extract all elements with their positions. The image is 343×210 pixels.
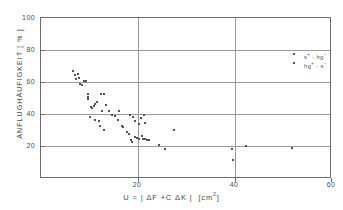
legend-marker-icon-0 (293, 53, 295, 55)
chart-legend: s+ - hg− hg+ - s− (293, 50, 343, 68)
gridline-x-20 (138, 18, 139, 177)
data-point (231, 148, 233, 150)
x-tick-label-20: 20 (125, 181, 149, 188)
data-point (143, 114, 145, 116)
data-point (75, 78, 77, 80)
data-point (74, 74, 76, 76)
gridline-y-60 (41, 82, 330, 83)
data-point (87, 98, 89, 100)
y-tick-60 (41, 82, 45, 83)
data-point (138, 123, 140, 125)
data-point (158, 144, 160, 146)
data-point (129, 114, 131, 116)
y-tick-label-40: 40 (9, 110, 35, 117)
legend-entry-1: hg+ - s− (293, 59, 343, 68)
data-point (134, 120, 136, 122)
data-point (291, 147, 293, 149)
y-tick-40 (41, 114, 45, 115)
data-point (103, 129, 105, 131)
data-point (118, 110, 120, 112)
gridline-y-40 (41, 114, 330, 115)
y-tick-80 (41, 50, 45, 51)
data-point (94, 103, 96, 105)
gridline-y-20 (41, 146, 330, 147)
x-tick-label-40: 40 (222, 181, 246, 188)
x-tick-20 (138, 178, 139, 182)
y-tick-label-20: 20 (9, 142, 35, 149)
data-point (89, 116, 91, 118)
data-point (232, 159, 234, 161)
data-point (72, 70, 74, 72)
data-point (173, 129, 175, 131)
data-point (96, 101, 98, 103)
data-point (85, 80, 87, 82)
x-tick-60 (331, 178, 332, 182)
data-point (122, 126, 124, 128)
legend-label-1: hg+ - s− (304, 59, 327, 71)
data-point (94, 119, 96, 121)
data-point (111, 114, 113, 116)
data-point (103, 93, 105, 95)
plot-area: s+ - hg− hg+ - s− (40, 17, 331, 178)
x-axis-title: U=|ΔF+CΔK|[cm2] (0, 191, 343, 202)
data-point (78, 77, 80, 79)
data-point (108, 110, 110, 112)
data-point (164, 148, 166, 150)
data-point (101, 110, 103, 112)
data-point (117, 119, 119, 121)
data-point (105, 104, 107, 106)
x-tick-label-60: 60 (319, 181, 343, 188)
data-point (81, 84, 83, 86)
data-point (245, 145, 247, 147)
data-point (144, 122, 146, 124)
y-tick-label-80: 80 (9, 46, 35, 53)
data-point (138, 138, 140, 140)
x-tick-40 (235, 178, 236, 182)
data-point (77, 73, 79, 75)
y-tick-label-60: 60 (9, 78, 35, 85)
gridline-x-40 (235, 18, 236, 177)
gridline-y-80 (41, 50, 330, 51)
y-tick-20 (41, 146, 45, 147)
y-tick-label-100: 100 (9, 14, 35, 21)
data-point (114, 115, 116, 117)
data-point (131, 141, 133, 143)
legend-entry-0: s+ - hg− (293, 50, 343, 59)
scatter-chart: ANFLUGHÄUFIGKEIT [ % ] 100 80 60 40 20 2… (0, 0, 343, 210)
data-point (91, 107, 93, 109)
data-point (100, 93, 102, 95)
data-point (98, 120, 100, 122)
data-point (132, 116, 134, 118)
data-point (148, 139, 150, 141)
data-point (99, 125, 101, 127)
legend-marker-icon-1 (293, 62, 295, 64)
data-point (140, 117, 142, 119)
data-point (128, 133, 130, 135)
